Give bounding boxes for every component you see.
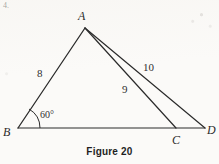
vertex-label-c: C <box>172 134 180 146</box>
vertex-label-a: A <box>78 10 85 22</box>
length-label-ac: 9 <box>122 84 128 95</box>
vertex-label-d: D <box>207 124 216 136</box>
length-label-ab: 8 <box>37 68 43 79</box>
figure-canvas: 4. A B C D 8 9 10 60° Figure 20 <box>0 0 219 164</box>
segment-ad <box>85 28 205 128</box>
figure-caption: Figure 20 <box>0 146 219 157</box>
length-label-ad: 10 <box>143 62 154 73</box>
triangle-diagram <box>0 0 219 164</box>
vertex-label-b: B <box>3 126 10 138</box>
angle-arc-b <box>29 109 40 128</box>
segment-ac <box>85 28 176 128</box>
angle-label-b: 60° <box>40 110 54 120</box>
